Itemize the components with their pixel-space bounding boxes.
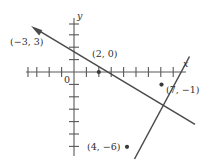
x-axis-label: x: [183, 59, 188, 69]
point-marker-7-neg1: [159, 83, 163, 87]
descending-line-arrowhead: [31, 26, 42, 36]
point-label-neg3-3: (−3, 3): [10, 37, 44, 47]
graph-canvas: [0, 0, 211, 164]
point-label-4-neg6: (4, −6): [87, 142, 121, 152]
origin-label: 0: [64, 75, 70, 85]
point-marker-2-0: [97, 70, 101, 74]
point-label-2-0: (2, 0): [92, 49, 118, 59]
descending-line: [36, 29, 196, 125]
point-marker-4-neg6: [125, 145, 129, 149]
coordinate-plane-figure: x y 0 (−3, 3) (2, 0) (7, −1) (4, −6): [0, 0, 211, 164]
point-label-7-neg1: (7, −1): [166, 85, 200, 95]
y-axis-label: y: [77, 11, 82, 21]
